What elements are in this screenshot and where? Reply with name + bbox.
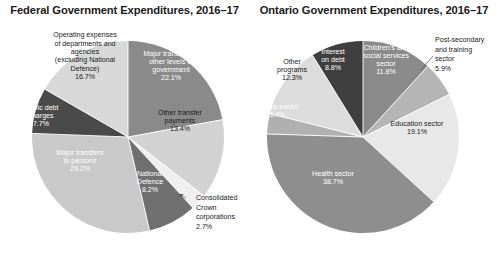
- callout-label: Post-secondaryand trainingsector5.9%: [435, 36, 485, 73]
- ontario-pie-chart: Children’s andsocial servicessector11.8%…: [249, 0, 499, 255]
- ontario-callouts: Post-secondaryand trainingsector5.9%: [421, 36, 485, 73]
- federal-pie-chart: Major transfers toother levels ofgovernm…: [0, 0, 249, 255]
- federal-expenditures-chart-panel: Federal Government Expenditures, 2016–17…: [0, 0, 249, 255]
- ontario-expenditures-chart-panel: Ontario Government Expenditures, 2016–17…: [249, 0, 499, 255]
- callout-label: ConsolidatedCrowncorporations2.7%: [196, 194, 237, 231]
